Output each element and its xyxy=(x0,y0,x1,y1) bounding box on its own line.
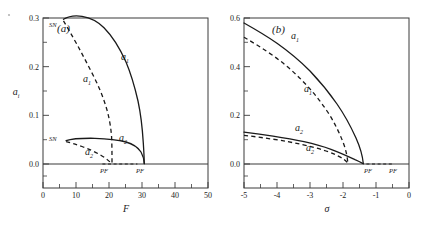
panel-a-ytick-0.2: 0.2 xyxy=(29,63,39,72)
svg-text:ai: ai xyxy=(13,86,20,99)
panel-a-xtick-50: 50 xyxy=(204,191,212,200)
panel-a-pf-right-label: PF xyxy=(135,167,145,174)
panel-a-xlabel: F xyxy=(122,203,130,214)
panel-b-xlabel: σ xyxy=(325,203,331,214)
panel-a-a1-stable-label: a1 xyxy=(121,51,129,64)
panel-a-x-ticks xyxy=(43,182,208,188)
panel-b-a1-stable-label: a1 xyxy=(291,30,299,43)
panel-a-xtick-10: 10 xyxy=(72,191,80,200)
bifurcation-figure: 0.3 0.2 0.1 0.0 ai 0 10 20 30 40 50 F xyxy=(0,0,437,230)
panel-b-a1-unstable-label: a1 xyxy=(304,83,312,96)
panel-a-a2-unstable-label: a2 xyxy=(85,146,93,159)
panel-b-frame xyxy=(244,18,409,188)
panel-a-pf-left-label: PF xyxy=(99,167,109,174)
panel-a-sn-lower-label: SN xyxy=(49,135,57,142)
panel-a-frame xyxy=(43,18,208,188)
panel-a-xtick-40: 40 xyxy=(171,191,179,200)
panel-b-curve-a2-stable xyxy=(244,132,363,164)
panel-b-label: (b) xyxy=(272,23,285,36)
panel-b-xtick--1: -1 xyxy=(373,191,380,200)
panel-a-sn-upper-label: SN xyxy=(49,21,57,28)
panel-a-a1-unstable-label: a1 xyxy=(83,73,91,86)
panel-a-curve-a1-stable xyxy=(64,16,145,164)
panel-a-a2-stable-label: a2 xyxy=(119,132,127,145)
panel-a-ytick-0.1: 0.1 xyxy=(29,111,39,120)
panel-a-ytick-0.3: 0.3 xyxy=(29,14,39,23)
panel-b-xtick--2: -2 xyxy=(340,191,347,200)
panel-b-xtick-0: 0 xyxy=(407,191,411,200)
panel-b-ytick-0.6: 0.6 xyxy=(230,14,240,23)
panel-b: 0.6 0.4 0.2 0.0 -5 -4 -3 -2 -1 0 σ (b) xyxy=(230,14,411,214)
panel-b-xtick--4: -4 xyxy=(274,191,281,200)
panel-a-ytick-0.0: 0.0 xyxy=(29,160,39,169)
panel-b-pf-right-label: PF xyxy=(388,167,398,174)
panel-b-y-ticks xyxy=(244,18,250,176)
panel-a-xtick-20: 20 xyxy=(105,191,113,200)
panel-b-xtick--3: -3 xyxy=(307,191,314,200)
panel-a-xtick-0: 0 xyxy=(41,191,45,200)
panel-b-ytick-0.0: 0.0 xyxy=(230,160,240,169)
panel-b-a2-stable-label: a2 xyxy=(295,122,303,135)
panel-a-y-ticks xyxy=(43,18,49,176)
panel-b-ytick-0.2: 0.2 xyxy=(230,111,240,120)
corner-speck-artifact xyxy=(8,14,10,16)
ylabel-sub: i xyxy=(18,93,20,99)
panel-a-xtick-30: 30 xyxy=(138,191,146,200)
panel-b-pf-left-label: PF xyxy=(363,167,373,174)
panel-a-ylabel: ai xyxy=(13,86,20,99)
panel-b-x-ticks xyxy=(244,182,409,188)
panel-b-xtick--5: -5 xyxy=(241,191,248,200)
panel-b-curve-a1-unstable xyxy=(244,37,348,163)
panel-a-curve-a2-stable xyxy=(66,138,144,163)
panel-a-curve-a1-unstable xyxy=(64,21,113,164)
panel-a: 0.3 0.2 0.1 0.0 ai 0 10 20 30 40 50 F xyxy=(13,14,212,214)
panel-b-ytick-0.4: 0.4 xyxy=(230,63,240,72)
